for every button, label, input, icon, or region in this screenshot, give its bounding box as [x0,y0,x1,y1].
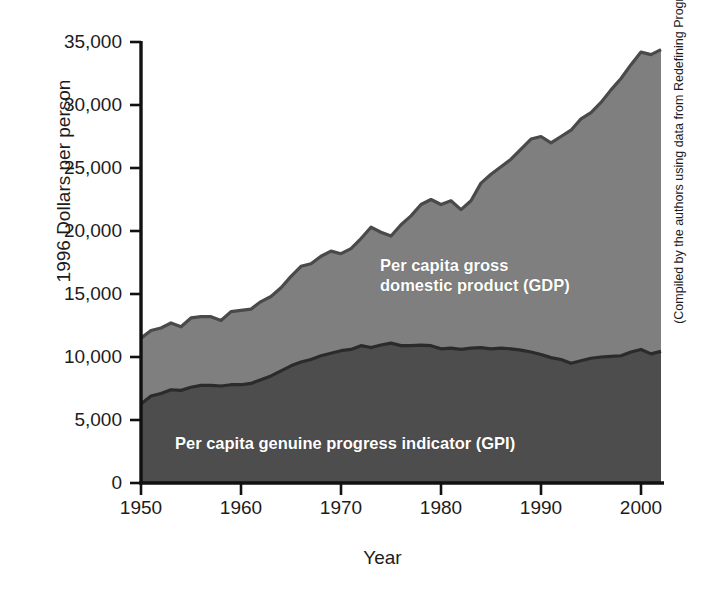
y-axis-tick-label: 10,000 [64,346,122,368]
y-axis-tick-label: 0 [111,472,122,494]
y-axis-tick-label: 30,000 [64,94,122,116]
x-axis-title: Year [140,547,625,569]
y-axis-tick-label: 15,000 [64,283,122,305]
gpi-area-label: Per capita genuine progress indicator (G… [175,433,515,453]
y-axis-tick-label: 35,000 [64,31,122,53]
x-axis-tick-label: 1990 [520,497,562,519]
x-axis-tick-label: 1980 [420,497,462,519]
gdp-label-line1: Per capita gross [380,256,508,274]
x-axis-tick-label: 1960 [220,497,262,519]
x-axis-tick-label: 1970 [320,497,362,519]
y-axis-tick-label: 5,000 [74,409,122,431]
x-axis-tick-label: 2000 [620,497,662,519]
y-axis-tick-label: 25,000 [64,157,122,179]
gdp-area-label: Per capita grossdomestic product (GDP) [380,255,570,295]
x-axis-tick-label: 1950 [120,497,162,519]
source-credit: (Compiled by the authors using data from… [672,0,686,337]
gdp-label-line2: domestic product (GDP) [380,276,570,294]
chart-figure: 1996 Dollars per person 05,00010,00015,0… [0,0,721,590]
y-axis-tick-labels: 05,00010,00015,00020,00025,00030,00035,0… [0,0,122,590]
y-axis-tick-label: 20,000 [64,220,122,242]
